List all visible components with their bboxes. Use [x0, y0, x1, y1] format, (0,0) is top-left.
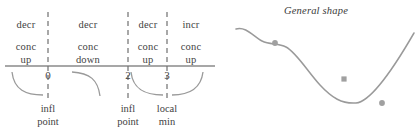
point-label-infl-0: infl point	[20, 103, 76, 128]
interval-concavity-2: conc down	[56, 40, 120, 66]
inflection-point-marker	[341, 76, 346, 81]
decreasing-concave-down-arc	[72, 72, 100, 96]
tick-label-3: 3	[157, 69, 177, 81]
general-shape-graphics	[216, 0, 416, 131]
general-shape-panel: General shape	[216, 0, 416, 131]
interval-monotonicity-4: incr	[169, 18, 213, 31]
tick-label-0: 0	[38, 69, 58, 81]
tick-label-2: 2	[118, 69, 138, 81]
point-label-local-min: local min	[139, 103, 195, 128]
sign-chart-panel: decr decr decr incr conc up conc down co…	[0, 0, 216, 131]
local-min-marker	[379, 100, 385, 106]
interval-monotonicity-3: decr	[129, 18, 167, 31]
calculus-sign-chart-figure: decr decr decr incr conc up conc down co…	[0, 0, 416, 131]
interval-concavity-1: conc up	[0, 40, 52, 66]
interval-concavity-4: conc up	[169, 40, 213, 66]
inflection-point-marker	[272, 40, 278, 46]
interval-monotonicity-1: decr	[0, 18, 52, 31]
interval-monotonicity-2: decr	[56, 18, 120, 31]
interval-concavity-3: conc up	[129, 40, 167, 66]
function-curve	[236, 28, 414, 103]
